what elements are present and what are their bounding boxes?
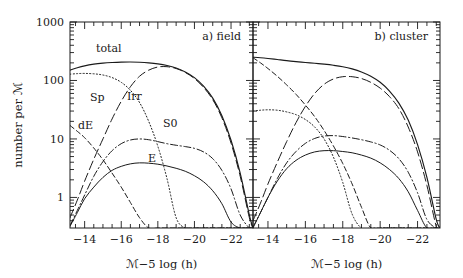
x-axis-title-cluster: ℳ−5 log (h) — [311, 257, 383, 271]
curve-de — [253, 58, 440, 230]
panel-cluster: −14−16−18−20−22b) cluster — [253, 22, 440, 246]
x-tick-label: −16 — [110, 233, 133, 246]
panel-field: −14−16−18−20−22a) field — [70, 22, 253, 246]
x-tick-label: −22 — [406, 233, 429, 246]
panel-title-field: a) field — [202, 30, 241, 43]
panel-ticks — [253, 22, 440, 228]
panel-frame — [253, 22, 440, 228]
x-tick-label: −20 — [369, 233, 392, 246]
y-tick-label: 1 — [57, 191, 64, 204]
figure-canvas: 1000100101ℳ−5 log (h)ℳ−5 log (h)number p… — [0, 0, 463, 278]
curve-sp — [253, 76, 440, 229]
curve-e — [70, 163, 253, 229]
curve-label-sp: Sp — [90, 91, 105, 104]
y-tick-label: 1000 — [36, 16, 64, 29]
y-tick-label: 10 — [50, 133, 64, 146]
curves-group — [70, 62, 253, 229]
x-tick-label: −16 — [294, 233, 317, 246]
x-tick-label: −14 — [73, 233, 96, 246]
curve-label-s0: S0 — [163, 117, 178, 130]
x-tick-label: −14 — [256, 233, 279, 246]
y-axis-title: number per ℳ — [11, 82, 25, 167]
curve-s0 — [253, 136, 440, 229]
x-tick-label: −22 — [219, 233, 242, 246]
curve-s0 — [70, 139, 253, 229]
curve-label-irr: Irr — [127, 90, 143, 103]
panel-title-cluster: b) cluster — [375, 30, 429, 43]
x-axis-title: ℳ−5 log (h) — [126, 257, 198, 271]
curve-label-e: E — [148, 152, 156, 165]
curves-group — [253, 57, 440, 230]
x-tick-label: −20 — [183, 233, 206, 246]
plot-svg: 1000100101ℳ−5 log (h)ℳ−5 log (h)number p… — [0, 0, 463, 278]
x-tick-label: −18 — [331, 233, 354, 246]
curve-label-total: total — [96, 42, 122, 55]
curve-label-de: dE — [78, 119, 93, 132]
x-tick-label: −18 — [146, 233, 169, 246]
curve-e — [253, 151, 440, 230]
curve-total — [253, 57, 440, 228]
y-tick-label: 100 — [43, 74, 64, 87]
curve-total — [70, 62, 253, 228]
